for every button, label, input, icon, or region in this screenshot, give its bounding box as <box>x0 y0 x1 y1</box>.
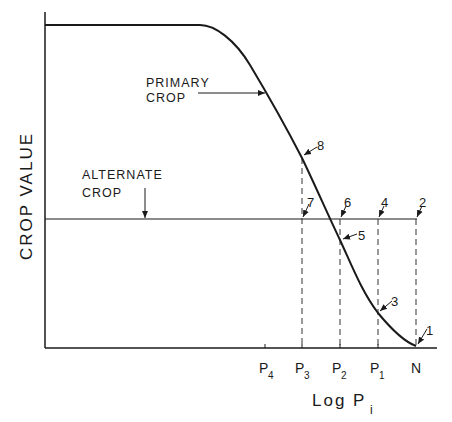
x-tick-label-n: N <box>411 360 421 376</box>
point-8: 8 <box>304 138 324 155</box>
x-axis-title: Log P i <box>312 391 373 417</box>
svg-text:1: 1 <box>426 323 433 338</box>
y-axis-title: CROP VALUE <box>17 132 36 260</box>
point-7: 7 <box>303 195 314 217</box>
dashed-guides <box>302 158 416 348</box>
svg-text:3: 3 <box>304 370 310 381</box>
crop-value-diagram: PRIMARY CROP ALTERNATE CROP 8 7 6 5 4 2 … <box>0 0 452 422</box>
primary-crop-label-line1: PRIMARY <box>146 76 210 90</box>
x-tick-label-p4: P 4 <box>259 360 274 381</box>
svg-text:4: 4 <box>381 195 388 210</box>
svg-text:P: P <box>295 360 304 376</box>
alternate-crop-label-line1: ALTERNATE <box>82 168 163 182</box>
svg-text:P: P <box>370 360 379 376</box>
point-2: 2 <box>417 195 426 217</box>
svg-text:5: 5 <box>358 228 365 243</box>
point-5: 5 <box>343 228 365 243</box>
svg-text:1: 1 <box>379 370 385 381</box>
x-tick-label-p3: P 3 <box>295 360 310 381</box>
alternate-crop-label-line2: CROP <box>82 186 122 200</box>
svg-text:8: 8 <box>317 138 324 153</box>
x-tick-label-p1: P 1 <box>370 360 385 381</box>
svg-text:Log P: Log P <box>312 391 366 410</box>
svg-text:2: 2 <box>341 370 347 381</box>
svg-text:6: 6 <box>344 195 351 210</box>
svg-text:7: 7 <box>307 195 314 210</box>
svg-text:2: 2 <box>419 195 426 210</box>
point-4: 4 <box>379 195 388 217</box>
point-6: 6 <box>341 195 351 217</box>
primary-crop-label-line2: CROP <box>146 91 186 105</box>
point-3: 3 <box>380 294 398 311</box>
svg-text:N: N <box>411 360 421 376</box>
svg-text:P: P <box>332 360 341 376</box>
svg-text:P: P <box>259 360 268 376</box>
x-tick-label-p2: P 2 <box>332 360 347 381</box>
svg-text:3: 3 <box>391 294 398 309</box>
point-1: 1 <box>418 323 433 344</box>
svg-text:i: i <box>370 403 373 417</box>
svg-text:4: 4 <box>268 370 274 381</box>
